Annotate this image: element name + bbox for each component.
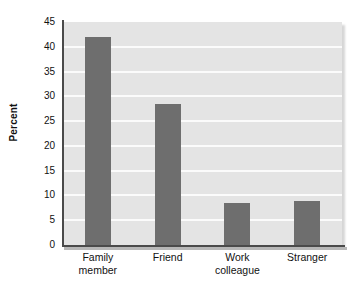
x-axis-baseline-shadow bbox=[64, 247, 347, 250]
y-axis-tick-labels: 051015202530354045 bbox=[26, 22, 59, 245]
x-tick-label-line: colleague bbox=[203, 264, 273, 277]
y-tick-label: 45 bbox=[44, 17, 55, 27]
y-tick-label: 25 bbox=[44, 116, 55, 126]
bar-chart-figure: Percent 051015202530354045 FamilymemberF… bbox=[0, 0, 362, 289]
y-tick-label: 35 bbox=[44, 67, 55, 77]
x-axis-line bbox=[62, 245, 345, 247]
x-tick-label-line: Work bbox=[203, 251, 273, 264]
bar bbox=[294, 201, 320, 245]
y-tick-label: 5 bbox=[49, 215, 55, 225]
bar bbox=[224, 203, 250, 245]
bars-layer bbox=[63, 22, 342, 245]
x-tick-label: Workcolleague bbox=[203, 251, 273, 276]
y-tick-label: 30 bbox=[44, 91, 55, 101]
x-tick-label: Stranger bbox=[272, 251, 342, 264]
x-axis-category-labels: FamilymemberFriendWorkcolleagueStranger bbox=[63, 251, 342, 289]
y-axis-title: Percent bbox=[0, 0, 26, 245]
y-tick-label: 0 bbox=[49, 240, 55, 250]
y-tick-label: 15 bbox=[44, 166, 55, 176]
x-tick-label-line: Friend bbox=[133, 251, 203, 264]
y-tick-label: 10 bbox=[44, 190, 55, 200]
y-tick-label: 40 bbox=[44, 42, 55, 52]
x-tick-label: Familymember bbox=[63, 251, 133, 276]
y-tick-label: 20 bbox=[44, 141, 55, 151]
bar bbox=[155, 104, 181, 245]
y-axis-title-label: Percent bbox=[8, 103, 19, 141]
x-tick-label-line: Stranger bbox=[272, 251, 342, 264]
bar bbox=[85, 37, 111, 245]
x-tick-label: Friend bbox=[133, 251, 203, 264]
x-tick-label-line: member bbox=[63, 264, 133, 277]
x-tick-label-line: Family bbox=[63, 251, 133, 264]
